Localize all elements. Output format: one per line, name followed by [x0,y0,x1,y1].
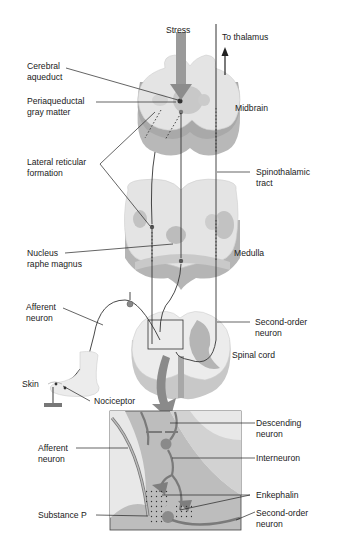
afferent-cell-body [127,301,133,307]
up-arrow-head-icon [222,47,229,56]
foot-illustration [44,351,99,407]
label-substance-p: Substance P [38,510,87,521]
label-midbrain: Midbrain [235,103,268,114]
label-afferent-neuron-inset: Afferent neuron [38,443,68,464]
label-cerebral-aqueduct: Cerebral aqueduct [27,61,62,82]
label-skin: Skin [22,379,39,390]
label-periaqueductal-gray: Periaqueductal gray matter [27,96,84,117]
label-enkephalin: Enkephalin [256,490,299,501]
medulla-section [124,179,240,290]
label-spinal-cord: Spinal cord [232,350,275,361]
label-lateral-reticular: Lateral reticular formation [27,157,86,178]
label-interneuron: Interneuron [256,453,300,464]
label-nucleus-raphe: Nucleus raphe magnus [27,248,82,269]
label-second-order-top: Second-order neuron [255,317,307,338]
label-afferent-neuron-top: Afferent neuron [26,302,56,323]
label-spinothalamic: Spinothalamic tract [256,167,310,188]
synapse-inset [110,411,241,530]
label-to-thalamus: To thalamus [222,32,268,43]
cerebral-aqueduct-dot [178,99,183,104]
label-nociceptor: Nociceptor [94,396,135,407]
label-stress: Stress [166,25,190,36]
label-medulla: Medulla [234,248,264,259]
label-descending-neuron: Descending neuron [256,418,301,439]
label-second-order-inset: Second-order neuron [256,508,308,529]
